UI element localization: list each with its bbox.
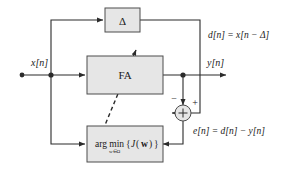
argmin-paren-open: ( [136,139,139,150]
argmin-block-arg-label: arg min [95,139,124,149]
summing-junction-minus-sign: − [171,93,177,104]
argmin-block-constraint-label: w∈Ω [109,149,121,154]
desired-signal-equation: d[n] = x[n − Δ] [208,30,269,40]
wire-error-to-argmin [163,121,183,144]
summing-junction-plus-sign: + [192,97,198,108]
fa-block-label: FA [118,69,131,81]
wire-input-to-argmin [51,75,85,144]
argmin-paren-close: ) [149,139,152,150]
input-terminal-dot [20,73,25,78]
block-diagram-figure: Δ FA arg min w∈Ω { J ( w ) } − + x[n] y[… [0,0,283,178]
input-signal-label: x[n] [30,57,48,68]
argmin-brace-open: { [126,139,131,149]
argmin-weight-vector-label: w [141,139,148,149]
argmin-brace-close: } [154,139,159,149]
delay-block-label: Δ [119,15,126,27]
error-signal-equation: e[n] = d[n] − y[n] [193,126,265,136]
output-signal-label: y[n] [206,57,224,68]
diagram-canvas: Δ FA arg min w∈Ω { J ( w ) } − + x[n] y[… [0,0,283,178]
